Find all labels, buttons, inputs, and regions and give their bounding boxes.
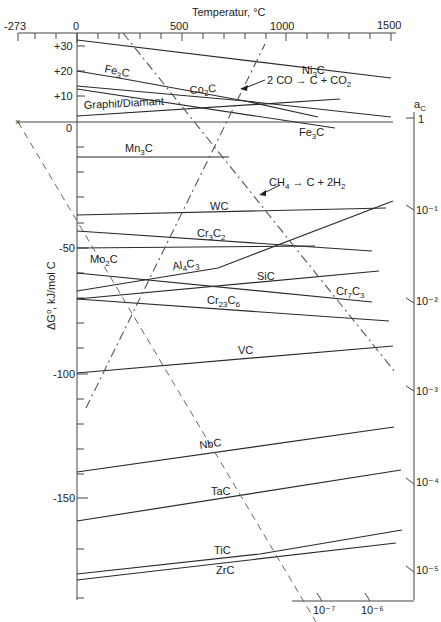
- label-al4c3: Al4C3: [172, 256, 201, 275]
- series-nbc: [77, 427, 394, 472]
- y-tick-label: -150: [53, 492, 75, 504]
- series-zrc: [77, 543, 396, 580]
- carbide-lines: [77, 40, 402, 580]
- right-tick-label: 1: [418, 113, 424, 125]
- label-mn3c: Mn3C: [125, 142, 153, 157]
- label-ch4-reaction: CH4 → C + 2H2: [269, 176, 346, 191]
- y-tick-label: +20: [54, 65, 73, 77]
- x-tick-label: 1500: [377, 19, 401, 31]
- series-labels: Ni3C Fe3C Co2C 2 CO → C + CO2 Graphit/Di…: [83, 62, 365, 576]
- x-tick-label: 500: [170, 20, 188, 32]
- series-tic: [77, 530, 402, 574]
- right-tick-label: 10⁻⁵: [416, 564, 439, 576]
- label-zrc: ZrC: [216, 564, 234, 576]
- y-axis-title: ΔG⁰, kJ/mol C: [45, 261, 57, 330]
- top-temperature-axis: -273 0 500 1000 1500 Temperatur, °C: [4, 6, 401, 43]
- series-vc: [77, 346, 393, 373]
- bottom-activity-axis: 10⁻⁷ 10⁻⁶: [292, 593, 414, 616]
- x-tick-label: 1000: [270, 20, 294, 32]
- left-dg-axis: +30 +20 +10 0 -50 -100 -150 ΔG⁰, kJ/mol …: [45, 33, 88, 600]
- right-axis-title: aC: [414, 98, 426, 113]
- origin-marker-icon: ×: [15, 117, 20, 127]
- reaction-lines: [18, 33, 395, 622]
- series-tac: [77, 470, 401, 521]
- label-cr7c3: Cr7C3: [336, 285, 365, 300]
- right-tick-label: 10⁻³: [416, 385, 438, 397]
- arrow-icon: [240, 85, 248, 91]
- label-mo2c: Mo2C: [90, 253, 118, 268]
- label-tic: TiC: [214, 544, 231, 556]
- arrow-icon: [259, 190, 266, 196]
- label-wc: WC: [210, 200, 228, 212]
- label-nbc: NbC: [199, 436, 223, 451]
- bottom-tick-label: 10⁻⁶: [361, 604, 384, 616]
- y-tick-label: -100: [53, 368, 75, 380]
- label-sic: SiC: [257, 270, 275, 282]
- right-activity-axis: aC 1 10⁻¹ 10⁻² 10⁻³ 10⁻⁴ 10⁻⁵: [406, 98, 439, 600]
- label-cr23c6: Cr23C6: [207, 294, 240, 309]
- bottom-tick-label: 10⁻⁷: [313, 604, 335, 616]
- label-fe3c-lower: Fe3C: [299, 126, 324, 141]
- carbide-ellingham-diagram: -273 0 500 1000 1500 Temperatur, °C: [0, 0, 441, 622]
- y-tick-label: 0: [66, 122, 72, 134]
- right-tick-label: 10⁻¹: [416, 204, 438, 216]
- x-tick-label: 0: [73, 20, 79, 32]
- y-tick-label: -50: [59, 242, 75, 254]
- label-graphit-diamant: Graphit/Diamant: [83, 95, 164, 111]
- series-mo2c: [77, 246, 315, 248]
- right-tick-label: 10⁻²: [416, 295, 438, 307]
- y-tick-label: +30: [54, 40, 73, 52]
- label-vc: VC: [238, 344, 253, 356]
- label-2co-reaction: 2 CO → C + CO2: [267, 74, 352, 89]
- reaction-ch4-line: [123, 33, 395, 372]
- x-tick-label: -273: [4, 20, 26, 32]
- y-tick-label: +10: [54, 90, 73, 102]
- series-wc: [77, 208, 386, 215]
- x-axis-title: Temperatur, °C: [192, 6, 266, 18]
- label-tac: TaC: [211, 485, 231, 497]
- right-tick-label: 10⁻⁴: [416, 476, 439, 488]
